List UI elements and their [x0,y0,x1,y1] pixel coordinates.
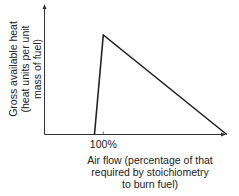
series-line [94,35,226,135]
x-axis-label-line-2: required by stoichiometry [91,166,209,178]
y-axis-label-line-1: Gross available heat [7,21,19,117]
y-axis-label-line-2: (heat units per unit [19,25,31,112]
x-axis-label-line-3: to burn fuel) [122,178,178,190]
y-axis-label-line-3: mass of fuel) [31,39,43,99]
x-tick-label: 100% [90,138,117,150]
chart: 100% Gross available heat (heat units pe… [0,0,239,196]
y-axis-arrow [43,4,47,9]
x-axis-label-line-1: Air flow (percentage of that [87,154,213,166]
